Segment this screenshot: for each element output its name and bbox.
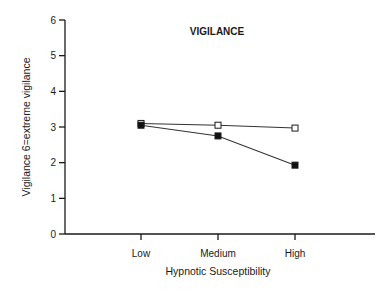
filled-square-marker: [215, 133, 221, 139]
y-tick-label: 6: [50, 15, 56, 26]
y-axis-title: Vigilance 6=extreme vigilance: [20, 57, 32, 196]
series-open-squares: [138, 120, 298, 131]
open-square-marker: [292, 125, 298, 131]
line-chart: VIGILANCE Vigilance 6=extreme vigilance …: [0, 0, 389, 300]
open-square-marker: [215, 122, 221, 128]
x-axis-title: Hypnotic Susceptibility: [165, 265, 271, 277]
x-tick-label: High: [285, 248, 306, 259]
x-tick-label: Medium: [200, 248, 236, 259]
y-tick-label: 0: [50, 229, 56, 240]
y-tick-label: 4: [50, 86, 56, 97]
y-tick-label: 1: [50, 193, 56, 204]
y-tick-label: 3: [50, 122, 56, 133]
filled-square-marker: [138, 122, 144, 128]
series-filled-squares: [138, 122, 298, 168]
y-tick-label: 2: [50, 157, 56, 168]
chart-title: VIGILANCE: [190, 26, 245, 37]
series-line: [141, 125, 295, 165]
y-tick-label: 5: [50, 50, 56, 61]
x-tick-label: Low: [132, 248, 151, 259]
filled-square-marker: [292, 162, 298, 168]
